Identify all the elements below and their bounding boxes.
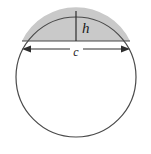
circular-segment-figure: h c (0, 0, 151, 154)
height-label: h (82, 20, 90, 36)
chord-label: c (73, 45, 79, 59)
chord-arrowhead-left-icon (22, 45, 31, 52)
chord-arrowhead-right-icon (121, 45, 130, 52)
figure-canvas: h c (0, 0, 151, 154)
